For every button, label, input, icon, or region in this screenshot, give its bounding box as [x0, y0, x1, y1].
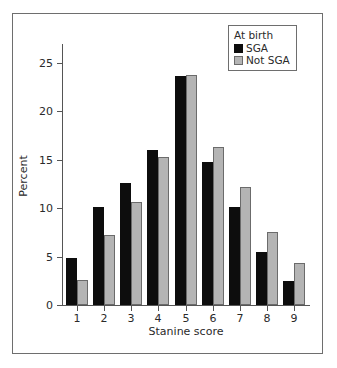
legend-entry-sga: SGA: [234, 42, 290, 54]
bar-sga-9: [283, 281, 294, 305]
bar-sga-1: [66, 258, 77, 305]
y-axis-title: Percent: [17, 155, 30, 196]
y-tick-mark: [57, 63, 62, 64]
y-tick-mark: [57, 257, 62, 258]
x-tick-label: 6: [210, 313, 217, 324]
bar-sga-7: [229, 207, 240, 305]
bar-not-sga-8: [267, 232, 278, 305]
bar-not-sga-4: [158, 157, 169, 305]
x-tick-mark: [213, 306, 214, 311]
x-tick-label: 3: [128, 313, 135, 324]
x-tick-mark: [77, 306, 78, 311]
y-tick-label: 20: [0, 106, 53, 117]
legend-label-sga: SGA: [246, 42, 268, 54]
x-tick-label: 5: [183, 313, 190, 324]
x-tick-label: 2: [101, 313, 108, 324]
legend-swatch-sga: [234, 44, 243, 53]
y-tick-label: 5: [0, 252, 53, 263]
bar-sga-2: [93, 207, 104, 305]
bar-not-sga-6: [213, 147, 224, 305]
y-tick-mark: [57, 111, 62, 112]
bar-sga-5: [175, 76, 186, 305]
y-tick-label: 0: [0, 300, 53, 311]
bar-sga-4: [147, 150, 158, 305]
bar-sga-8: [256, 252, 267, 305]
x-tick-label: 8: [264, 313, 271, 324]
x-tick-mark: [240, 306, 241, 311]
bar-sga-6: [202, 162, 213, 305]
x-tick-mark: [267, 306, 268, 311]
x-tick-mark: [158, 306, 159, 311]
plot-area: [63, 48, 308, 305]
x-tick-mark: [186, 306, 187, 311]
y-tick-mark: [57, 208, 62, 209]
x-tick-label: 9: [291, 313, 298, 324]
y-tick-label: 25: [0, 58, 53, 69]
legend-swatch-not-sga: [234, 56, 243, 65]
x-axis-title: Stanine score: [149, 325, 224, 338]
y-tick-mark: [57, 160, 62, 161]
bar-not-sga-1: [77, 280, 88, 305]
x-tick-mark: [104, 306, 105, 311]
legend-label-not-sga: Not SGA: [246, 54, 290, 66]
legend-title: At birth: [234, 29, 290, 41]
bar-sga-3: [120, 183, 131, 305]
x-tick-label: 4: [155, 313, 162, 324]
legend: At birth SGA Not SGA: [228, 25, 297, 71]
bar-not-sga-7: [240, 187, 251, 305]
figure: 0510152025 Percent 123456789 Stanine sco…: [0, 0, 337, 368]
x-tick-label: 7: [237, 313, 244, 324]
bar-not-sga-9: [294, 263, 305, 305]
x-tick-mark: [131, 306, 132, 311]
bar-not-sga-3: [131, 202, 142, 305]
y-tick-label: 10: [0, 203, 53, 214]
x-tick-mark: [294, 306, 295, 311]
bar-not-sga-2: [104, 235, 115, 305]
y-tick-mark: [57, 305, 62, 306]
legend-entry-not-sga: Not SGA: [234, 54, 290, 66]
x-tick-label: 1: [74, 313, 81, 324]
bar-not-sga-5: [186, 75, 197, 305]
